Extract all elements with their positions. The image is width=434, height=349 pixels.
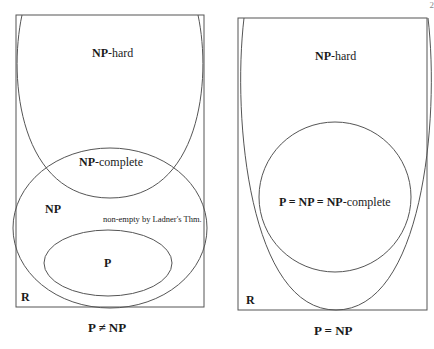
caption-right: P = NP: [314, 323, 352, 339]
p-label-left: P: [104, 256, 111, 271]
r-label-right: R: [246, 293, 255, 308]
caption-left: P ≠ NP: [88, 320, 126, 336]
venn-diagrams: [0, 0, 434, 349]
ladner-note: non-empty by Ladner's Thm.: [103, 214, 202, 224]
np-label-left: NP: [45, 202, 61, 217]
r-label-left: R: [21, 290, 30, 305]
np-hard-label-left: NP-hard: [92, 46, 133, 61]
np-complete-label-left: NP-complete: [79, 155, 143, 170]
merged-class-label-right: P = NP = NP-complete: [279, 195, 391, 210]
np-hard-region-left: [17, 15, 203, 198]
np-hard-label-right: NP-hard: [315, 49, 356, 64]
np-region-left: [13, 148, 207, 308]
